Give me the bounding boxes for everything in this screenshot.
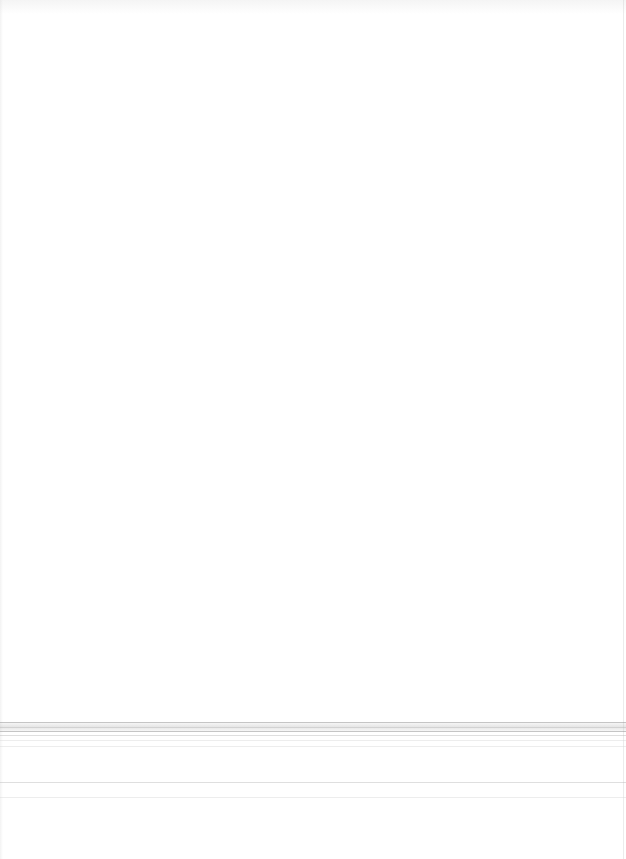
horizontal-rule: [0, 782, 626, 783]
faded-header-area: [0, 0, 626, 14]
horizontal-rule: [0, 746, 626, 747]
horizontal-rule: [0, 740, 626, 741]
horizontal-rule: [0, 727, 626, 728]
horizontal-rule: [0, 722, 626, 723]
horizontal-rule: [0, 797, 626, 798]
horizontal-rule: [0, 731, 626, 732]
horizontal-rule: [0, 735, 626, 736]
document-page: [0, 0, 626, 859]
